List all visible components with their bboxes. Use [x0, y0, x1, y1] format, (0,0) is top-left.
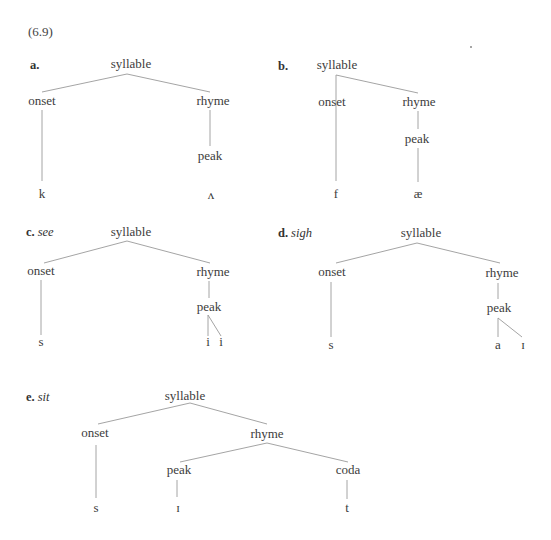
example-label: d.sigh — [278, 226, 312, 240]
tree-branches — [0, 0, 551, 540]
node-syllable: syllable — [165, 389, 205, 403]
branch-line — [498, 318, 522, 337]
branch-line — [98, 403, 190, 424]
scan-speck — [470, 46, 472, 48]
node-onset: onset — [81, 426, 108, 440]
node-syllable: syllable — [111, 57, 151, 71]
node-peak: peak — [167, 463, 192, 477]
node-peak: peak — [405, 132, 430, 146]
branch-line — [190, 403, 267, 424]
node-seg1: s — [38, 335, 43, 349]
branch-line — [417, 243, 500, 263]
node-coda: coda — [336, 463, 361, 477]
node-onset: onset — [318, 95, 345, 109]
example-label: b. — [278, 59, 288, 73]
node-peak: peak — [487, 301, 512, 315]
example-label: a. — [30, 58, 39, 72]
example-word: sigh — [291, 226, 312, 240]
node-seg2: a — [495, 338, 501, 352]
node-rhyme: rhyme — [485, 266, 518, 280]
example-letter: d. — [278, 226, 288, 240]
node-seg2: ɪ — [176, 501, 180, 515]
example-letter: e. — [26, 390, 35, 404]
node-seg1: f — [334, 187, 338, 201]
node-rhyme: rhyme — [196, 265, 229, 279]
node-peak: peak — [197, 300, 222, 314]
node-onset: onset — [27, 264, 54, 278]
node-seg1: s — [93, 501, 98, 515]
node-seg1: s — [328, 338, 333, 352]
branch-line — [127, 74, 210, 92]
node-syllable: syllable — [317, 58, 357, 72]
branch-line — [267, 443, 348, 462]
node-peak: peak — [198, 149, 223, 163]
node-seg1: k — [39, 187, 46, 201]
example-letter: b. — [278, 59, 288, 73]
branch-line — [42, 74, 127, 92]
branch-line — [127, 241, 210, 263]
node-rhyme: rhyme — [196, 94, 229, 108]
example-label: e.sit — [26, 390, 50, 404]
example-word: sit — [38, 390, 50, 404]
node-rhyme: rhyme — [250, 427, 283, 441]
example-letter: a. — [30, 58, 39, 72]
node-rhyme: rhyme — [402, 95, 435, 109]
branch-line — [44, 241, 127, 263]
node-seg2: i — [206, 335, 210, 349]
branch-line — [180, 443, 267, 462]
node-onset: onset — [28, 94, 55, 108]
node-seg2: ʌ — [208, 188, 215, 202]
branch-line — [208, 315, 221, 336]
node-syllable: syllable — [111, 225, 151, 239]
node-seg3: t — [345, 501, 349, 515]
node-seg2: æ — [414, 187, 423, 201]
branch-line — [336, 75, 418, 93]
node-seg3: ɪ — [521, 338, 525, 352]
example-word: see — [38, 225, 54, 239]
syllable-structure-figure: (6.9) a.syllableonsetrhymepeakkʌb.syllab… — [0, 0, 551, 540]
node-onset: onset — [318, 265, 345, 279]
example-letter: c. — [26, 225, 35, 239]
example-label: c.see — [26, 225, 54, 239]
branch-line — [336, 243, 417, 263]
node-syllable: syllable — [401, 226, 441, 240]
node-seg3: i — [219, 335, 223, 349]
